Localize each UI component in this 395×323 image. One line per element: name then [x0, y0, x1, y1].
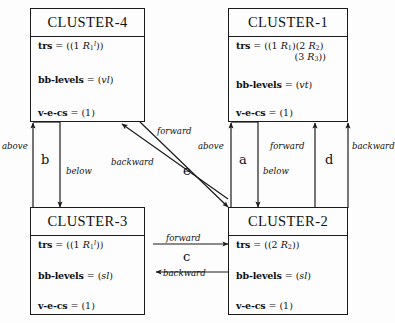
attr-bb-levels: bb-levels = (sl): [236, 271, 340, 282]
edge-label-forward-bottom: forward: [166, 233, 201, 243]
cluster-attributes: trs = ((1 R1l)) bb-levels = (sl) v-e-cs …: [31, 236, 144, 315]
cluster-title: CLUSTER-1: [229, 9, 347, 37]
cluster-box-cluster-2[interactable]: CLUSTER-2 trs = ((2 R2)) bb-levels = (sl…: [228, 207, 348, 315]
attr-trs: trs = ((2 R2)): [236, 240, 340, 251]
edge-label-forward-diag: forward: [157, 126, 192, 136]
edge-label-above-right: above: [198, 141, 224, 151]
cluster-attributes: trs = ((1 R1)(2 R2) (3 R3)) bb-levels = …: [229, 37, 347, 122]
edge-label-backward-diag: backward: [111, 157, 154, 167]
edge-label-backward-bottom: backward: [163, 268, 206, 278]
group-label-a: a: [239, 152, 247, 167]
attr-v-e-cs: v-e-cs = (1): [236, 301, 340, 312]
attr-bb-levels: bb-levels = (vl): [38, 75, 137, 86]
group-label-c: c: [183, 249, 190, 264]
cluster-attributes: trs = ((1 R1l)) bb-levels = (vl) v-e-cs …: [31, 37, 144, 122]
attr-trs: trs = ((1 R1)(2 R2) (3 R3)): [236, 41, 340, 63]
cluster-box-cluster-1[interactable]: CLUSTER-1 trs = ((1 R1)(2 R2) (3 R3)) bb…: [228, 8, 348, 122]
edge-label-below-left: below: [66, 166, 92, 176]
cluster-box-cluster-4[interactable]: CLUSTER-4 trs = ((1 R1l)) bb-levels = (v…: [30, 8, 145, 122]
group-label-d: d: [325, 152, 333, 167]
attr-v-e-cs: v-e-cs = (1): [236, 108, 340, 119]
cluster-box-cluster-3[interactable]: CLUSTER-3 trs = ((1 R1l)) bb-levels = (s…: [30, 207, 145, 315]
attr-bb-levels: bb-levels = (sl): [38, 271, 137, 282]
cluster-attributes: trs = ((2 R2)) bb-levels = (sl) v-e-cs =…: [229, 236, 347, 315]
cluster-title: CLUSTER-2: [229, 208, 347, 236]
group-label-b: b: [41, 152, 49, 167]
group-label-e: e: [183, 163, 191, 178]
cluster-title: CLUSTER-3: [31, 208, 144, 236]
attr-trs: trs = ((1 R1l)): [38, 240, 137, 251]
edge-label-backward-right: backward: [352, 141, 395, 151]
attr-trs: trs = ((1 R1l)): [38, 41, 137, 52]
attr-v-e-cs: v-e-cs = (1): [38, 301, 137, 312]
attr-bb-levels: bb-levels = (vt): [236, 80, 340, 91]
cluster-title: CLUSTER-4: [31, 9, 144, 37]
edge-label-below-right: below: [263, 166, 289, 176]
attr-v-e-cs: v-e-cs = (1): [38, 108, 137, 119]
edge-label-above-left: above: [2, 141, 28, 151]
edge-label-forward-right: forward: [270, 141, 305, 151]
